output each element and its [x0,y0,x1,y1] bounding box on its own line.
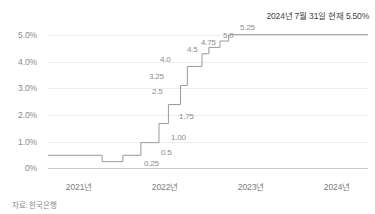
y-tick-label-4: 4.0% [18,57,37,67]
plot-area: 5.0% 4.0% 3.0% 2.0% 1.0% 0% 2021년 2022년 … [48,22,368,175]
y-tick-label-2: 2.0% [18,110,37,120]
data-label-5: 3.25 [149,72,164,81]
data-label-7: 4.5 [187,45,198,54]
current-rate-annotation: 2024년 7월 31일 현재 5.50% [267,9,369,21]
x-tick-label-2021: 2021년 [66,180,92,192]
data-label-3: 1.75 [179,112,194,121]
data-label-4: 2.5 [152,87,163,96]
x-tick-label-2023: 2023년 [238,180,264,192]
data-label-9: 5.0 [223,31,234,40]
data-label-8: 4.75 [201,38,216,47]
rate-step-chart: 2024년 7월 31일 현재 5.50% 5.0% 4.0% 3.0% 2.0… [0,0,375,214]
y-tick-label-0: 0% [25,163,37,173]
y-tick-label-3: 3.0% [18,83,37,93]
y-tick-label-5: 5.0% [18,30,37,40]
x-tick-label-2024: 2024년 [324,180,350,192]
data-label-0: 0.25 [144,159,159,168]
data-label-10: 5.25 [240,23,255,32]
data-label-1: 0.5 [161,148,172,157]
x-tick-label-2022: 2022년 [152,180,178,192]
source-caption: 자료: 한국은행 [12,199,57,210]
data-label-6: 4.0 [160,55,171,64]
y-tick-label-1: 1.0% [18,137,37,147]
data-label-2: 1.00 [171,133,186,142]
